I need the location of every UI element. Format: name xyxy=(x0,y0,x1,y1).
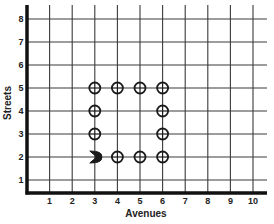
x-tick-label: 10 xyxy=(248,196,258,206)
y-tick-label: 6 xyxy=(18,60,23,70)
x-tick-label: 7 xyxy=(183,196,188,206)
y-tick-label: 3 xyxy=(18,129,23,139)
circle-marker xyxy=(112,152,123,163)
y-tick-label: 1 xyxy=(18,175,23,185)
circle-marker xyxy=(89,106,100,117)
circle-marker xyxy=(135,83,146,94)
circle-marker xyxy=(157,152,168,163)
y-tick-label: 4 xyxy=(18,106,23,116)
circle-marker xyxy=(135,152,146,163)
street-grid-chart: 12345678910 12345678 Avenues Streets xyxy=(0,0,274,224)
x-tick-label: 2 xyxy=(70,196,75,206)
x-tick-label: 1 xyxy=(47,196,52,206)
y-tick-labels: 12345678 xyxy=(18,14,23,185)
circle-marker xyxy=(89,129,100,140)
y-tick-label: 7 xyxy=(18,37,23,47)
y-tick-label: 8 xyxy=(18,14,23,24)
x-tick-labels: 12345678910 xyxy=(47,196,258,206)
x-tick-label: 6 xyxy=(160,196,165,206)
x-axis-title: Avenues xyxy=(125,208,167,219)
y-tick-label: 2 xyxy=(18,152,23,162)
x-tick-label: 5 xyxy=(137,196,142,206)
circle-marker xyxy=(157,83,168,94)
data-markers xyxy=(89,83,168,164)
y-tick-label: 5 xyxy=(18,83,23,93)
circle-marker xyxy=(157,129,168,140)
x-tick-label: 9 xyxy=(228,196,233,206)
circle-marker xyxy=(112,83,123,94)
circle-marker xyxy=(157,106,168,117)
x-tick-label: 4 xyxy=(115,196,120,206)
x-tick-label: 8 xyxy=(205,196,210,206)
x-tick-label: 3 xyxy=(92,196,97,206)
grid-lines xyxy=(27,5,267,193)
circle-marker xyxy=(89,83,100,94)
y-axis-title: Streets xyxy=(2,86,13,120)
